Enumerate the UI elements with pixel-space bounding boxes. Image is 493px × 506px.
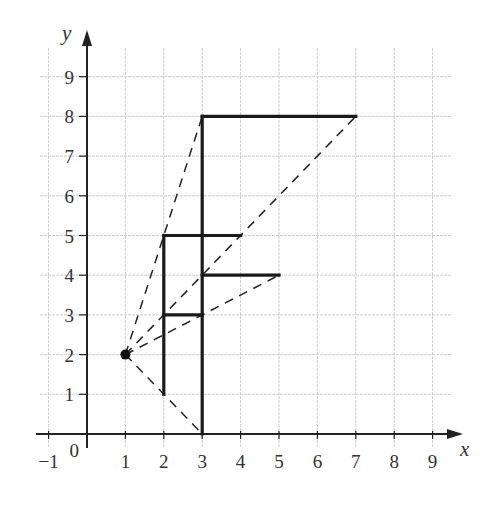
y-axis-label: y <box>60 21 72 45</box>
y-tick-label: 9 <box>65 67 75 88</box>
y-tick-label: 2 <box>65 345 75 366</box>
tick-labels: −11234567891234567890xy <box>38 21 470 472</box>
y-tick-label: 6 <box>65 186 75 207</box>
y-tick-label: 4 <box>65 265 75 286</box>
x-axis-label: x <box>459 437 470 461</box>
x-tick-label: 2 <box>159 451 169 472</box>
y-tick-label: 1 <box>65 384 75 405</box>
x-tick-label: 3 <box>197 451 207 472</box>
x-tick-label: −1 <box>38 451 58 472</box>
x-tick-label: 7 <box>351 451 361 472</box>
x-tick-label: 6 <box>313 451 323 472</box>
centre-point <box>120 350 130 360</box>
y-tick-label: 8 <box>65 106 75 127</box>
y-tick-label: 7 <box>65 146 75 167</box>
y-axis-arrow-icon <box>82 30 92 46</box>
y-tick-label: 3 <box>65 305 75 326</box>
x-tick-label: 4 <box>236 451 246 472</box>
enlargement-diagram: −11234567891234567890xy <box>0 0 493 506</box>
x-tick-label: 1 <box>121 451 131 472</box>
origin-label: 0 <box>70 440 80 461</box>
grid-lines <box>40 48 452 448</box>
x-tick-label: 8 <box>389 451 399 472</box>
axes <box>36 30 463 448</box>
x-tick-label: 5 <box>274 451 284 472</box>
y-tick-label: 5 <box>65 226 75 247</box>
x-tick-label: 9 <box>428 451 438 472</box>
